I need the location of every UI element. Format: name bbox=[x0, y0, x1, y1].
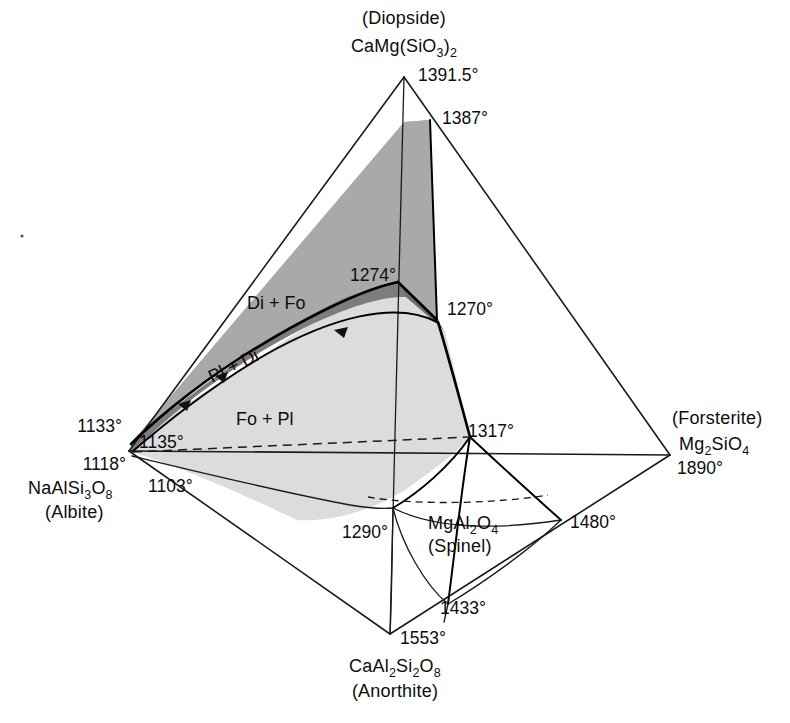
albite-formula-p3: 8 bbox=[106, 488, 113, 502]
scan-speck bbox=[20, 234, 23, 237]
curve-1290-anorthite bbox=[390, 508, 393, 634]
spinel-formula-p0: MgAl bbox=[428, 513, 470, 533]
forsterite-formula-p2: SiO bbox=[712, 434, 743, 454]
anorthite-formula-p1: 2 bbox=[389, 666, 396, 680]
anorthite-formula-p3: 2 bbox=[412, 666, 419, 680]
spinel-formula-p2: O bbox=[477, 513, 491, 533]
albite-formula-p2: O bbox=[91, 478, 105, 498]
anorthite-formula-p0: CaAl bbox=[349, 656, 389, 676]
vertex-label-forsterite-formula: Mg2SiO4 bbox=[679, 434, 749, 458]
temp-label-1133: 1133° bbox=[77, 416, 122, 436]
field-label-fo-pl: Fo + Pl bbox=[236, 409, 294, 429]
field-label-di-fo: Di + Fo bbox=[247, 293, 306, 313]
temp-label-1290: 1290° bbox=[342, 522, 388, 542]
anorthite-formula-p4: O bbox=[420, 656, 434, 676]
vertex-label-diopside-name: (Diopside) bbox=[362, 8, 446, 28]
diopside-formula-p0: CaMg(SiO bbox=[351, 36, 437, 56]
temp-label-1270: 1270° bbox=[447, 299, 493, 319]
temp-label-1391-5: 1391.5° bbox=[418, 65, 479, 85]
temp-label-1890: 1890° bbox=[677, 458, 723, 478]
temp-label-1317: 1317° bbox=[468, 421, 514, 441]
forsterite-formula-p1: 2 bbox=[704, 444, 711, 458]
temp-label-1274: 1274° bbox=[350, 265, 396, 285]
temp-label-1480: 1480° bbox=[570, 512, 616, 532]
anorthite-formula-p2: Si bbox=[396, 656, 412, 676]
forsterite-formula-p3: 4 bbox=[742, 444, 749, 458]
temp-label-1433: 1433° bbox=[440, 598, 486, 618]
vertex-label-anorthite-formula: CaAl2Si2O8 bbox=[349, 656, 441, 680]
anorthite-formula-p5: 8 bbox=[434, 666, 441, 680]
vertex-label-albite-name: (Albite) bbox=[45, 502, 104, 522]
temp-label-1387: 1387° bbox=[442, 108, 488, 128]
temp-label-1553: 1553° bbox=[400, 628, 446, 648]
spinel-formula-p3: 4 bbox=[491, 523, 498, 537]
albite-formula-p0: NaAlSi bbox=[28, 478, 84, 498]
phase-label-spinel-formula: MgAl2O4 bbox=[428, 513, 498, 537]
spinel-formula-p1: 2 bbox=[470, 523, 477, 537]
vertex-label-albite-formula: NaAlSi3O8 bbox=[28, 478, 113, 502]
vertex-label-forsterite-name: (Forsterite) bbox=[672, 408, 762, 428]
phase-label-spinel-name: (Spinel) bbox=[428, 536, 492, 556]
dashed-spinel-rear bbox=[368, 495, 548, 503]
forsterite-formula-p0: Mg bbox=[679, 434, 704, 454]
temp-label-1103: 1103° bbox=[148, 476, 193, 496]
tetrahedron-svg: (Diopside) CaMg(SiO3)2 1391.5° 1387° 127… bbox=[0, 0, 790, 723]
temp-label-1135: 1135° bbox=[139, 432, 184, 452]
vertex-label-anorthite-name: (Anorthite) bbox=[352, 681, 438, 701]
diopside-formula-p3: 2 bbox=[450, 46, 457, 60]
diopside-formula-p1: 3 bbox=[437, 46, 444, 60]
shaded-regions bbox=[129, 120, 470, 520]
albite-formula-p1: 3 bbox=[84, 488, 91, 502]
vertex-label-diopside-formula: CaMg(SiO3)2 bbox=[351, 36, 457, 60]
boundary-1317-1480 bbox=[470, 437, 561, 520]
temp-label-1118: 1118° bbox=[83, 454, 126, 474]
phase-diagram-figure: (Diopside) CaMg(SiO3)2 1391.5° 1387° 127… bbox=[0, 0, 790, 723]
